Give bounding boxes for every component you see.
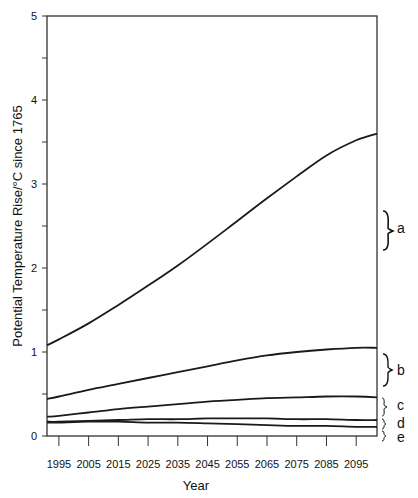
y-axis: 012345: [31, 10, 47, 442]
y-axis-title: Potential Temperature Rise/°C since 1765: [10, 105, 25, 346]
temperature-rise-chart: 012345 199520052015202520352045205520652…: [0, 0, 418, 498]
x-axis: 1995200520152025203520452055206520752085…: [47, 436, 369, 470]
brace-c-icon: [382, 398, 387, 416]
y-tick-label: 3: [31, 178, 37, 190]
series-labels: [382, 211, 393, 441]
brace-d-icon: [382, 419, 386, 429]
series-line-c: [47, 396, 377, 416]
y-tick-label: 2: [31, 262, 37, 274]
x-tick-label: 2035: [166, 458, 190, 470]
x-tick-label: 2005: [76, 458, 100, 470]
x-tick-label: 2055: [225, 458, 249, 470]
series-line-e: [47, 422, 377, 427]
x-tick-label: 2075: [284, 458, 308, 470]
x-tick-label: 2095: [344, 458, 368, 470]
plot-frame: [47, 16, 377, 436]
series-line-b: [47, 348, 377, 399]
label-c: c: [397, 397, 404, 413]
y-tick-label: 0: [31, 430, 37, 442]
x-axis-title: Year: [183, 478, 210, 493]
x-tick-label: 1995: [47, 458, 71, 470]
data-series: [47, 134, 377, 427]
brace-e-icon: [382, 431, 386, 441]
x-tick-label: 2015: [106, 458, 130, 470]
brace-a-icon: [383, 211, 393, 250]
y-tick-label: 4: [31, 94, 37, 106]
x-tick-label: 2045: [195, 458, 219, 470]
y-tick-label: 1: [31, 346, 37, 358]
y-tick-label: 5: [31, 10, 37, 22]
series-line-a: [47, 134, 377, 346]
x-tick-label: 2065: [255, 458, 279, 470]
label-e: e: [397, 429, 405, 445]
label-a: a: [397, 220, 405, 236]
x-tick-label: 2025: [136, 458, 160, 470]
label-b: b: [397, 362, 405, 378]
x-tick-label: 2085: [314, 458, 338, 470]
brace-b-icon: [383, 354, 392, 386]
